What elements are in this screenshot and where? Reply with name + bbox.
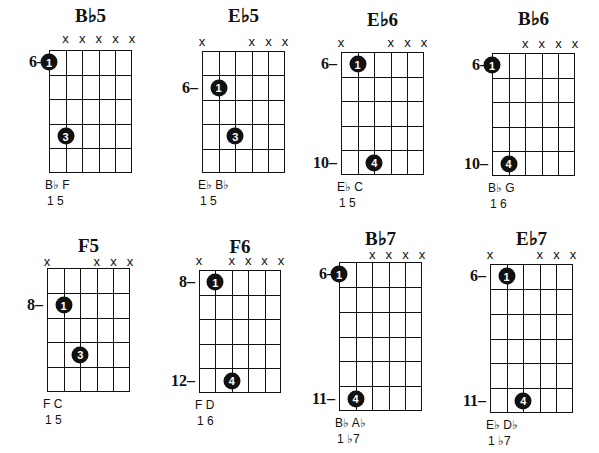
fret-line bbox=[342, 150, 423, 151]
muted-string-marker: x bbox=[386, 248, 393, 261]
fret-line bbox=[491, 339, 572, 340]
muted-string-marker: x bbox=[555, 37, 562, 50]
muted-string-marker: x bbox=[196, 254, 203, 267]
fret-line bbox=[50, 148, 131, 149]
fret-line bbox=[340, 337, 421, 338]
muted-string-marker: x bbox=[129, 32, 136, 45]
finger-dot: 4 bbox=[366, 154, 383, 171]
fret-line bbox=[50, 99, 131, 100]
muted-string-marker: x bbox=[282, 35, 289, 48]
note-names: E♭ D♭ bbox=[486, 419, 518, 431]
string-line bbox=[525, 54, 526, 175]
fret-number-label: 8– bbox=[179, 274, 195, 290]
fret-line bbox=[491, 388, 572, 389]
muted-string-marker: x bbox=[94, 255, 101, 268]
muted-string-marker: x bbox=[79, 32, 86, 45]
muted-string-marker: x bbox=[404, 36, 411, 49]
string-line bbox=[391, 53, 392, 174]
scale-degrees: 1 5 bbox=[45, 414, 62, 426]
fret-number-label: 6– bbox=[470, 268, 486, 284]
fret-line bbox=[493, 78, 574, 79]
muted-string-marker: x bbox=[265, 35, 272, 48]
finger-dot: 3 bbox=[57, 128, 74, 145]
fret-line bbox=[493, 102, 574, 103]
muted-string-marker: x bbox=[570, 248, 577, 261]
muted-string-marker: x bbox=[96, 32, 103, 45]
muted-string-marker: x bbox=[249, 35, 256, 48]
fret-line bbox=[203, 124, 284, 125]
fret-line bbox=[203, 75, 284, 76]
fret-number-label: 12– bbox=[171, 373, 195, 389]
fret-line bbox=[200, 344, 280, 345]
scale-degrees: 1 5 bbox=[200, 195, 217, 207]
fretboard-grid bbox=[202, 51, 285, 173]
finger-dot: 1 bbox=[207, 274, 224, 291]
fret-line bbox=[342, 126, 423, 127]
string-line bbox=[66, 51, 67, 172]
chord-name: B♭5 bbox=[75, 6, 106, 25]
string-line bbox=[97, 269, 98, 391]
fret-line bbox=[50, 75, 131, 76]
muted-string-marker: x bbox=[245, 254, 252, 267]
chord-name: E♭5 bbox=[228, 6, 259, 25]
fret-line bbox=[491, 289, 572, 290]
finger-dot: 1 bbox=[41, 54, 58, 71]
string-line bbox=[407, 53, 408, 174]
fret-line bbox=[48, 293, 129, 294]
muted-string-marker: x bbox=[112, 32, 119, 45]
muted-string-marker: x bbox=[537, 248, 544, 261]
string-line bbox=[99, 51, 100, 172]
fret-number-label: 11– bbox=[312, 391, 335, 407]
string-line bbox=[235, 52, 236, 172]
fret-line bbox=[342, 77, 423, 78]
finger-dot: 4 bbox=[515, 392, 532, 409]
note-names: E♭ C bbox=[337, 181, 363, 193]
fret-line bbox=[48, 367, 129, 368]
finger-dot: 4 bbox=[500, 155, 517, 172]
string-line bbox=[542, 54, 543, 175]
muted-string-marker: x bbox=[487, 248, 494, 261]
fret-number-label: 10– bbox=[313, 155, 337, 171]
string-line bbox=[80, 269, 81, 391]
note-names: F C bbox=[43, 398, 62, 410]
chord-name: B♭7 bbox=[365, 229, 396, 248]
string-line bbox=[82, 51, 83, 172]
muted-string-marker: x bbox=[369, 248, 376, 261]
chord-name: E♭7 bbox=[516, 229, 547, 248]
fret-number-label: 6– bbox=[182, 80, 198, 96]
fret-line bbox=[200, 368, 280, 369]
scale-degrees: 1 ♭7 bbox=[337, 433, 360, 445]
string-line bbox=[252, 52, 253, 172]
scale-degrees: 1 5 bbox=[47, 195, 64, 207]
string-line bbox=[268, 52, 269, 172]
fret-line bbox=[203, 100, 284, 101]
fretboard-grid bbox=[339, 262, 422, 411]
note-names: E♭ B♭ bbox=[198, 179, 229, 191]
muted-string-marker: x bbox=[229, 254, 236, 267]
chord-name: F5 bbox=[78, 236, 99, 255]
muted-string-marker: x bbox=[110, 255, 117, 268]
fret-line bbox=[342, 101, 423, 102]
fret-line bbox=[200, 295, 280, 296]
scale-degrees: 1 5 bbox=[339, 197, 356, 209]
muted-string-marker: x bbox=[572, 37, 579, 50]
finger-dot: 1 bbox=[331, 266, 348, 283]
fret-line bbox=[200, 319, 280, 320]
muted-string-marker: x bbox=[261, 254, 268, 267]
fret-line bbox=[493, 127, 574, 128]
string-line bbox=[558, 54, 559, 175]
string-line bbox=[64, 269, 65, 391]
string-line bbox=[265, 271, 266, 392]
fret-line bbox=[340, 361, 421, 362]
finger-dot: 1 bbox=[484, 57, 501, 74]
finger-dot: 1 bbox=[498, 268, 515, 285]
fret-line bbox=[491, 363, 572, 364]
string-line bbox=[248, 271, 249, 392]
fretboard-grid bbox=[49, 50, 132, 173]
finger-dot: 3 bbox=[227, 128, 244, 145]
string-line bbox=[113, 269, 114, 391]
scale-degrees: 1 ♭7 bbox=[488, 435, 511, 447]
scale-degrees: 1 6 bbox=[197, 415, 214, 427]
muted-string-marker: x bbox=[338, 36, 345, 49]
fret-number-label: 11– bbox=[463, 393, 486, 409]
